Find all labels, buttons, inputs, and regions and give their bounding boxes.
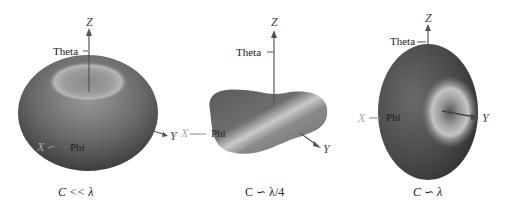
caption-quarter-wave: C ∽ λ/4 (245, 185, 284, 200)
panel-quarter-wave: Z Theta Y X Phi C ∽ λ/4 (170, 0, 340, 211)
radiation-pattern-torus: Z Theta Y X Phi (0, 0, 170, 211)
z-axis-label: Z (86, 15, 93, 29)
z-axis-label: Z (425, 11, 432, 25)
theta-label: Theta (390, 35, 415, 47)
phi-label: Phi (70, 141, 85, 153)
y-axis-label: Y (482, 111, 490, 125)
panel-small-loop: Z Theta Y X Phi C << λ (0, 0, 170, 211)
phi-label: Phi (386, 111, 401, 123)
radiation-pattern-ellipsoid: Z Theta Y X Phi (340, 0, 507, 211)
torus-top-dimple (48, 62, 128, 102)
z-axis-label: Z (271, 15, 278, 29)
phi-label: Phi (211, 127, 226, 139)
y-arrowhead (162, 132, 168, 137)
theta-label: Theta (53, 45, 78, 57)
x-axis-label: X (357, 111, 366, 125)
y-axis-label: Y (323, 142, 331, 156)
x-axis-label: X (180, 126, 189, 140)
panel-full-wave: Z Theta Y X Phi C ∽ λ (340, 0, 507, 211)
theta-label: Theta (236, 46, 261, 58)
radiation-pattern-bean: Z Theta Y X Phi (170, 0, 340, 211)
z-arrowhead (425, 24, 431, 31)
y-arrowhead (313, 141, 321, 148)
caption-full-wave: C ∽ λ (413, 185, 442, 200)
caption-small-loop: C << λ (58, 185, 93, 200)
z-arrowhead (86, 28, 92, 36)
x-axis-label: X (36, 140, 45, 154)
bean-body (209, 89, 327, 153)
z-arrowhead (271, 30, 277, 38)
